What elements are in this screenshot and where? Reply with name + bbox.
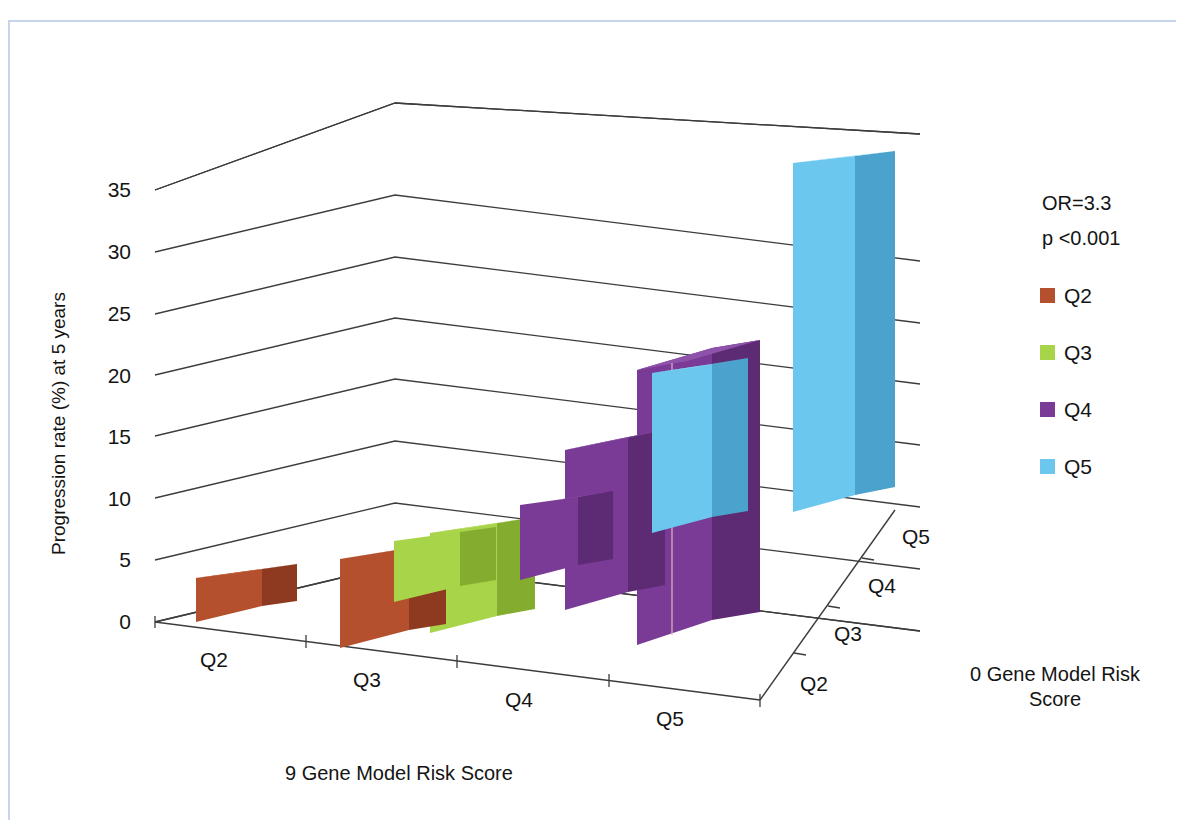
z-tick-q3: Q3 [834, 622, 862, 646]
p-value-annotation: p <0.001 [1042, 227, 1120, 250]
bar-q5depth-q5series [793, 151, 895, 512]
legend-item-q4[interactable]: Q4 [1040, 399, 1092, 420]
y-tick-15: 15 [85, 425, 131, 449]
legend-item-q5[interactable]: Q5 [1040, 456, 1092, 477]
z-tick-q5: Q5 [902, 525, 930, 549]
legend-swatch-q2-icon [1040, 288, 1055, 303]
odds-ratio-annotation: OR=3.3 [1042, 192, 1111, 215]
y-tick-30: 30 [85, 240, 131, 264]
x-tick-q3: Q3 [353, 668, 381, 692]
y-tick-0: 0 [85, 610, 131, 634]
x-axis-title: 9 Gene Model Risk Score [285, 762, 513, 785]
y-tick-25: 25 [85, 302, 131, 326]
y-tick-5: 5 [85, 548, 131, 572]
legend: Q2 Q3 Q4 Q5 [1040, 285, 1092, 513]
chart-3d-bar: Progression rate (%) at 5 years 35 30 25… [0, 0, 1180, 822]
y-tick-10: 10 [85, 487, 131, 511]
y-axis-title: Progression rate (%) at 5 years [48, 292, 70, 555]
legend-swatch-q5-icon [1040, 459, 1055, 474]
legend-swatch-q4-icon [1040, 402, 1055, 417]
bar-q4depth-q5series [652, 358, 748, 533]
x-tick-q5: Q5 [656, 707, 684, 731]
legend-label-q5: Q5 [1064, 455, 1092, 479]
legend-item-q2[interactable]: Q2 [1040, 285, 1092, 306]
legend-label-q4: Q4 [1064, 398, 1092, 422]
legend-swatch-q3-icon [1040, 345, 1055, 360]
legend-label-q3: Q3 [1064, 341, 1092, 365]
legend-label-q2: Q2 [1064, 284, 1092, 308]
z-axis-title: 0 Gene Model Risk Score [950, 662, 1160, 712]
z-tick-q2: Q2 [800, 672, 828, 696]
x-tick-q4: Q4 [505, 688, 533, 712]
y-tick-35: 35 [85, 178, 131, 202]
z-tick-q4: Q4 [868, 574, 896, 598]
bar-q2depth-q2series [196, 564, 297, 622]
y-tick-20: 20 [85, 364, 131, 388]
x-tick-q2: Q2 [200, 648, 228, 672]
legend-item-q3[interactable]: Q3 [1040, 342, 1092, 363]
